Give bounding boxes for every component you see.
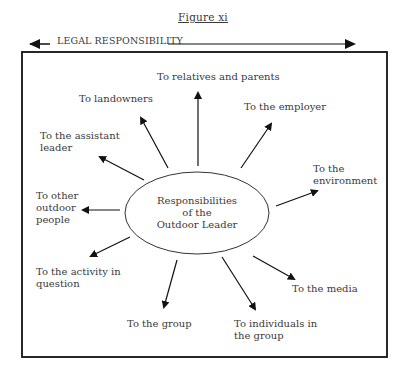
node-other-outdoor: To other outdoor people [36, 190, 78, 226]
node-landowners: To landowners [79, 93, 153, 105]
node-relatives: To relatives and parents [157, 71, 280, 83]
arrow-assistant [100, 157, 144, 180]
node-assistant: To the assistant leader [40, 130, 120, 154]
node-label: leader [40, 142, 120, 154]
node-label: To the assistant [40, 130, 120, 142]
node-label: outdoor [36, 202, 78, 214]
node-label: To landowners [79, 93, 153, 105]
node-individuals: To individuals in the group [234, 318, 317, 342]
center-line-3: Outdoor Leader [140, 219, 254, 231]
legal-responsibility-label: LEGAL RESPONSIBILITY [57, 35, 183, 46]
node-label: To the activity in [36, 266, 121, 278]
node-label: To the group [127, 318, 192, 330]
node-group: To the group [127, 318, 192, 330]
node-label: To individuals in [234, 318, 317, 330]
node-label: To relatives and parents [157, 71, 280, 83]
arrow-landowners [141, 118, 168, 168]
node-label: To the [313, 163, 377, 175]
arrow-group [164, 260, 177, 307]
center-line-2: of the [140, 207, 254, 219]
arrow-individuals [222, 257, 255, 309]
arrow-employer [241, 124, 271, 168]
center-line-1: Responsibilities [140, 195, 254, 207]
diagram-graphics [0, 0, 406, 377]
figure-caption: Figure xi [0, 11, 406, 23]
node-environment: To the environment [313, 163, 377, 187]
node-label: environment [313, 175, 377, 187]
arrow-environment [276, 191, 317, 206]
node-label: To the employer [244, 101, 326, 113]
node-media: To the media [292, 283, 358, 295]
node-label: To the media [292, 283, 358, 295]
node-employer: To the employer [244, 101, 326, 113]
node-label: question [36, 278, 121, 290]
arrow-activity [91, 237, 130, 256]
node-label: people [36, 214, 78, 226]
arrow-media [253, 256, 294, 279]
center-node: Responsibilities of the Outdoor Leader [140, 195, 254, 231]
node-label: To other [36, 190, 78, 202]
node-activity: To the activity in question [36, 266, 121, 290]
node-label: the group [234, 330, 317, 342]
